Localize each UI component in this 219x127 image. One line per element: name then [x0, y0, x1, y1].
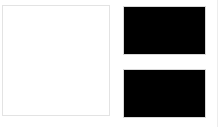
right-edge-divider [217, 0, 218, 127]
thumbnail-1[interactable] [123, 6, 206, 55]
thumbnail-1-label [124, 7, 125, 8]
main-panel-label [3, 6, 4, 7]
thumbnail-2[interactable] [123, 69, 206, 118]
main-content-panel [2, 5, 110, 116]
thumbnail-2-label [124, 70, 125, 71]
screen-root [0, 0, 219, 127]
